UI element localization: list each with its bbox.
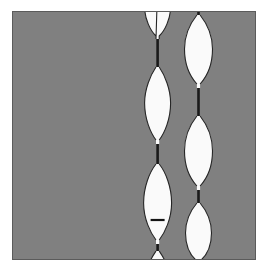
- left-bulge-3-fill: [144, 164, 172, 244]
- right-bulge-1-fill: [185, 15, 213, 88]
- micrograph-figure: [0, 0, 268, 272]
- right-bulge-2-fill: [185, 116, 213, 190]
- left-strand: [144, 11, 172, 260]
- left-bulge-4-fill: [147, 251, 169, 260]
- right-strand: [185, 11, 213, 260]
- micrograph-panel: [12, 11, 256, 260]
- left-bulge-2-fill: [145, 67, 171, 144]
- strand-diagram: [12, 11, 256, 260]
